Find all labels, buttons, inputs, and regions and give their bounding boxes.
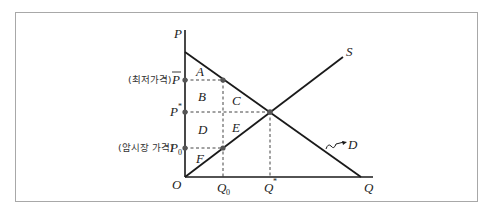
supply-label: S xyxy=(346,44,353,59)
qstar-superscript: * xyxy=(273,177,277,186)
equilibrium-price-star: * xyxy=(178,102,182,111)
equilibrium-price-dot xyxy=(182,109,187,114)
q0-subscript: 0 xyxy=(226,188,230,197)
black-market-price-subscript: 0 xyxy=(178,148,182,157)
arrowhead-icon xyxy=(342,141,347,145)
y-axis-label: P xyxy=(173,26,182,41)
x-axis-label: Q xyxy=(364,180,374,195)
region-d: D xyxy=(197,122,208,137)
equilibrium-price-symbol: P xyxy=(169,104,178,119)
region-a: A xyxy=(195,64,204,79)
equilibrium-dot xyxy=(267,109,273,115)
supply-curve xyxy=(185,57,343,177)
black-market-price-dot xyxy=(182,145,187,150)
region-f: F xyxy=(195,151,205,166)
demand-pointer-arrow xyxy=(326,142,344,149)
price-floor-dot xyxy=(182,77,187,82)
demand-curve xyxy=(185,52,361,177)
q0-supply-dot xyxy=(220,145,225,150)
points xyxy=(182,77,272,150)
region-c: C xyxy=(232,93,241,108)
black-market-caption: (암시장 가격) xyxy=(118,142,173,153)
price-floor-symbol: P xyxy=(171,72,180,87)
floor-demand-dot xyxy=(220,77,225,82)
demand-label: D xyxy=(347,137,358,152)
supply-demand-diagram: P Q O S D (최저가격) P P * (암시장 가격) P 0 Q 0 … xyxy=(0,0,492,215)
black-market-price-symbol: P xyxy=(169,140,178,155)
region-e: E xyxy=(231,120,240,135)
origin-label: O xyxy=(172,177,182,192)
price-floor-caption: (최저가격) xyxy=(128,74,171,85)
region-b: B xyxy=(198,89,206,104)
